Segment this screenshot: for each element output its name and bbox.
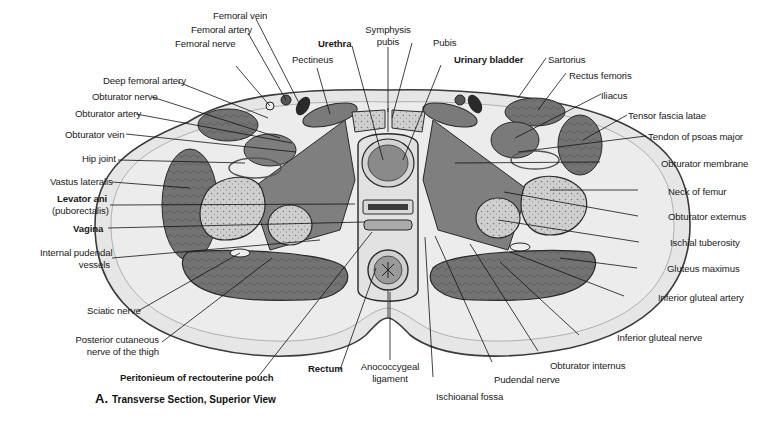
label-iliacus: Iliacus bbox=[601, 90, 628, 101]
label-sciatic-nerve: Sciatic nerve bbox=[87, 305, 141, 316]
label-anococcygeal-2: ligament bbox=[360, 373, 420, 384]
label-obturator-vein: Obturator vein bbox=[65, 129, 124, 140]
anatomy-figure: Femoral vein Femoral artery Femoral nerv… bbox=[0, 0, 778, 425]
label-obturator-externus: Obturator externus bbox=[668, 211, 746, 222]
label-vagina: Vagina bbox=[73, 223, 103, 234]
label-internal-pudendal-1: Internal pudendal bbox=[40, 247, 110, 258]
label-gluteus-maximus: Gluteus maximus bbox=[667, 263, 740, 274]
label-femoral-vein: Femoral vein bbox=[213, 10, 267, 21]
label-hip-joint: Hip joint bbox=[82, 153, 116, 164]
label-urethra: Urethra bbox=[318, 38, 351, 49]
label-pubis: Pubis bbox=[433, 37, 457, 48]
caption-text: Transverse Section, Superior View bbox=[112, 394, 276, 405]
label-tensor-fascia-latae: Tensor fascia latae bbox=[628, 110, 706, 121]
label-obturator-membrane: Obturator membrane bbox=[661, 158, 748, 169]
label-internal-pudendal-2: vessels bbox=[40, 259, 110, 270]
label-symphysis-2: pubis bbox=[358, 36, 418, 47]
label-neck-of-femur: Neck of femur bbox=[668, 186, 726, 197]
label-ischial-tuberosity: Ischial tuberosity bbox=[670, 237, 740, 248]
label-symphysis-1: Symphysis bbox=[358, 24, 418, 35]
label-peritoneum-rectouterine-pouch: Peritonieum of rectouterine pouch bbox=[120, 372, 273, 383]
label-pectineus: Pectineus bbox=[292, 54, 333, 65]
label-deep-femoral-artery: Deep femoral artery bbox=[103, 75, 186, 86]
label-anococcygeal-1: Anococcygeal bbox=[360, 361, 420, 372]
label-inferior-gluteal-artery: Inferior gluteal artery bbox=[658, 292, 744, 303]
label-rectus-femoris: Rectus femoris bbox=[569, 70, 632, 81]
label-levator-ani-sub: (puborectalis) bbox=[52, 205, 109, 216]
label-urinary-bladder: Urinary bladder bbox=[454, 54, 523, 65]
label-sartorius: Sartorius bbox=[548, 54, 586, 65]
label-rectum: Rectum bbox=[308, 363, 343, 374]
label-obturator-internus: Obturator internus bbox=[550, 360, 626, 371]
caption-letter: A. bbox=[95, 391, 108, 406]
label-posterior-cutaneous-1: Posterior cutaneous bbox=[60, 334, 159, 345]
label-tendon-of-psoas-major: Tendon of psoas major bbox=[648, 131, 743, 142]
label-levator-ani: Levator ani bbox=[57, 193, 107, 204]
figure-caption: A.Transverse Section, Superior View bbox=[95, 391, 276, 406]
label-posterior-cutaneous-2: nerve of the thigh bbox=[60, 346, 159, 357]
pelvic-organs bbox=[358, 134, 418, 318]
label-femoral-nerve: Femoral nerve bbox=[175, 38, 236, 49]
label-pudendal-nerve: Pudendal nerve bbox=[494, 374, 560, 385]
label-ischioanal-fossa: Ischioanal fossa bbox=[436, 391, 503, 402]
label-vastus-lateralis: Vastus lateralis bbox=[50, 176, 113, 187]
label-obturator-artery: Obturator artery bbox=[75, 108, 141, 119]
label-inferior-gluteal-nerve: Inferior gluteal nerve bbox=[617, 332, 702, 343]
label-obturator-nerve: Obturator nerve bbox=[92, 91, 158, 102]
label-femoral-artery: Femoral artery bbox=[191, 24, 252, 35]
pubic-bones bbox=[352, 108, 425, 132]
